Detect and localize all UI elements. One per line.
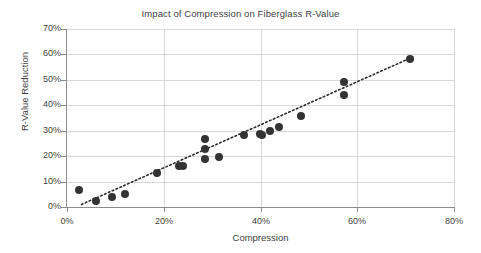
chart-container: Impact of Compression on Fiberglass R-Va… [0, 0, 481, 253]
x-axis-tick-labels: 0%20%40%60%80% [0, 0, 481, 253]
x-tick-label: 40% [238, 216, 284, 226]
x-tick-label: 20% [141, 216, 187, 226]
x-tick-label: 0% [44, 216, 90, 226]
x-tick-label: 80% [431, 216, 477, 226]
x-tick-label: 60% [334, 216, 380, 226]
